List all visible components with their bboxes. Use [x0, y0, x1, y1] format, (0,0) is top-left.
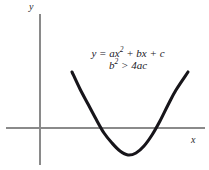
equation-term-c: + c: [147, 47, 165, 59]
parabola-curve: [72, 72, 188, 155]
discriminant-relation: >: [118, 59, 131, 71]
parabola-figure: y x y = ax2 + bx + c b2 > 4ac: [0, 0, 209, 170]
y-axis-label: y: [29, 2, 33, 12]
equation-term-bx: + bx: [123, 47, 146, 59]
figure-canvas: [0, 0, 209, 170]
discriminant-rhs: 4ac: [131, 59, 147, 71]
equation-equals: =: [96, 47, 109, 59]
x-axis-label: x: [191, 135, 195, 145]
equation-line-discriminant: b2 > 4ac: [62, 59, 194, 71]
equation-line-quadratic: y = ax2 + bx + c: [62, 47, 194, 59]
equation-annotation: y = ax2 + bx + c b2 > 4ac: [62, 47, 194, 72]
